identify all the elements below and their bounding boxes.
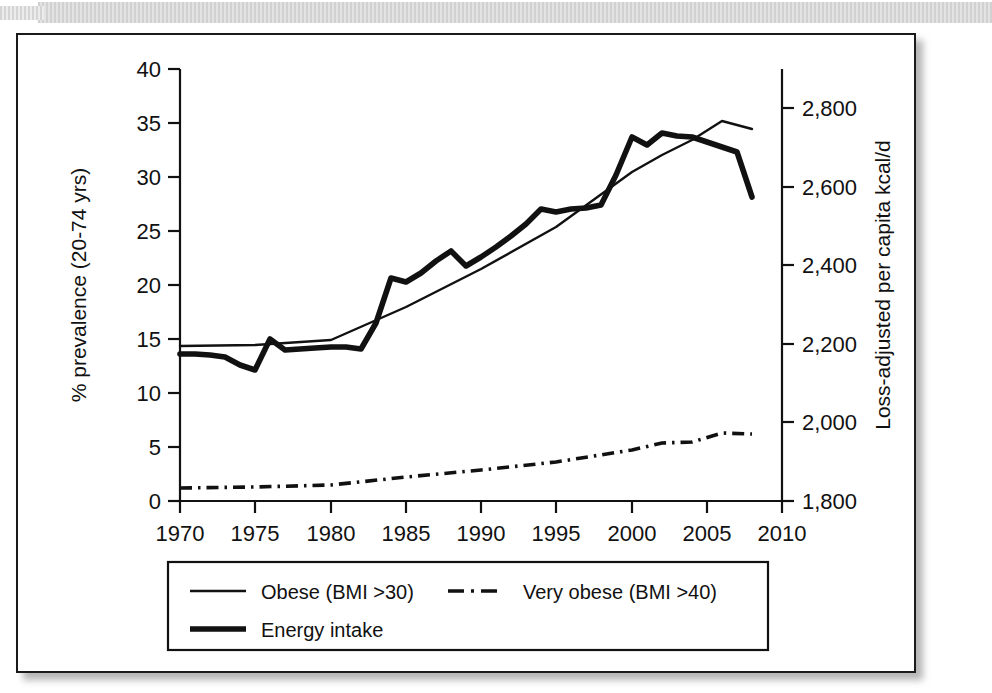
left-y-tick-labels: 40 35 30 25 20 15 10 5 0 — [137, 57, 161, 514]
x-tick-label: 1990 — [457, 521, 506, 546]
x-tick-label: 1975 — [231, 521, 280, 546]
legend-label-energy-intake: Energy intake — [261, 619, 383, 641]
left-axis-title: % prevalence (20-74 yrs) — [67, 168, 90, 403]
left-y-tick-label: 30 — [137, 165, 161, 190]
legend-box — [168, 562, 768, 650]
x-tick-label: 2005 — [683, 521, 732, 546]
x-tick-label: 1995 — [532, 521, 581, 546]
series-very-obese-line — [180, 433, 752, 488]
x-tick-label: 2000 — [608, 521, 657, 546]
left-y-ticks — [168, 69, 180, 501]
left-y-tick-label: 20 — [137, 273, 161, 298]
right-y-tick-labels: 2,800 2,600 2,400 2,200 2,000 1,800 — [802, 96, 857, 514]
right-y-tick-label: 2,800 — [802, 96, 857, 121]
x-tick-label: 1980 — [307, 521, 356, 546]
figure-root: 40 35 30 25 20 15 10 5 0 2,800 — [0, 0, 992, 693]
right-y-ticks — [782, 108, 794, 501]
series-obese-line — [180, 121, 752, 346]
series-energy-intake-line — [180, 133, 752, 370]
left-y-tick-label: 35 — [137, 111, 161, 136]
right-y-tick-label: 2,000 — [802, 410, 857, 435]
legend-label-very-obese: Very obese (BMI >40) — [523, 581, 717, 603]
right-axis-title: Loss-adjusted per capita kcal/d — [871, 140, 894, 430]
x-tick-label: 2010 — [758, 521, 807, 546]
left-y-tick-label: 25 — [137, 219, 161, 244]
legend-label-obese: Obese (BMI >30) — [261, 581, 414, 603]
right-y-tick-label: 2,400 — [802, 253, 857, 278]
x-tick-labels: 1970 1975 1980 1985 1990 1995 2000 2005 … — [156, 521, 807, 546]
left-y-tick-label: 15 — [137, 327, 161, 352]
x-ticks — [180, 501, 782, 513]
figure-panel: 40 35 30 25 20 15 10 5 0 2,800 — [16, 33, 916, 673]
left-y-tick-label: 40 — [137, 57, 161, 82]
scan-banner — [38, 2, 992, 23]
right-y-tick-label: 2,600 — [802, 175, 857, 200]
left-y-tick-label: 5 — [149, 435, 161, 460]
right-y-tick-label: 1,800 — [802, 489, 857, 514]
left-y-tick-label: 10 — [137, 381, 161, 406]
scan-banner-left — [0, 6, 44, 20]
right-y-tick-label: 2,200 — [802, 332, 857, 357]
left-y-tick-label: 0 — [149, 489, 161, 514]
chart-canvas: 40 35 30 25 20 15 10 5 0 2,800 — [18, 35, 914, 671]
x-tick-label: 1985 — [382, 521, 431, 546]
x-tick-label: 1970 — [156, 521, 205, 546]
